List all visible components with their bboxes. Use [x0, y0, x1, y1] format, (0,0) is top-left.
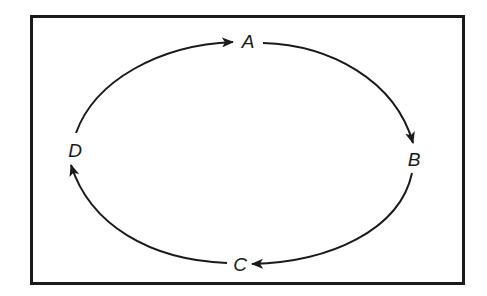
- node-a-label: A: [242, 32, 255, 51]
- node-c-label: C: [233, 255, 247, 274]
- node-b-label: B: [408, 150, 421, 169]
- node-d-label: D: [68, 141, 82, 160]
- edge-d-to-a: [76, 42, 233, 133]
- edge-c-to-d: [71, 165, 227, 263]
- edge-b-to-c: [252, 173, 412, 264]
- edge-a-to-b: [263, 43, 413, 143]
